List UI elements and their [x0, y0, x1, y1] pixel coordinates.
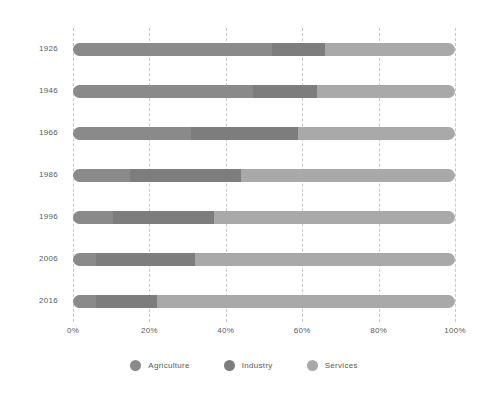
legend-item-industry[interactable]: Industry	[224, 360, 273, 371]
bar-segment-agriculture[interactable]	[73, 85, 253, 98]
stacked-bar-chart: 1926194619661986199620062016 0%20%40%60%…	[0, 0, 488, 402]
bar-row[interactable]	[73, 85, 455, 98]
legend-swatch-icon	[307, 360, 318, 371]
bar-segment-services[interactable]	[298, 127, 455, 140]
bar-segment-industry[interactable]	[96, 295, 157, 308]
legend-label: Agriculture	[148, 361, 190, 370]
bar-segment-agriculture[interactable]	[73, 169, 130, 182]
bar-segment-services[interactable]	[157, 295, 455, 308]
y-axis-label: 1996	[39, 212, 58, 221]
bar-segment-industry[interactable]	[272, 43, 325, 56]
bar-track	[73, 43, 455, 56]
x-axis-label: 60%	[294, 326, 311, 335]
y-axis-label: 1926	[39, 44, 58, 53]
bar-segment-agriculture[interactable]	[73, 295, 96, 308]
x-axis-label: 0%	[67, 326, 79, 335]
legend-item-agriculture[interactable]: Agriculture	[130, 360, 190, 371]
legend-swatch-icon	[130, 360, 141, 371]
bar-segment-services[interactable]	[325, 43, 455, 56]
legend-label: Services	[325, 361, 358, 370]
bar-track	[73, 253, 455, 266]
bar-segment-services[interactable]	[214, 211, 455, 224]
legend-swatch-icon	[224, 360, 235, 371]
bar-segment-industry[interactable]	[96, 253, 195, 266]
bar-segment-industry[interactable]	[253, 85, 318, 98]
bar-track	[73, 211, 455, 224]
bar-row[interactable]	[73, 295, 455, 308]
bar-segment-industry[interactable]	[191, 127, 298, 140]
x-axis-label: 40%	[217, 326, 234, 335]
bar-segment-services[interactable]	[241, 169, 455, 182]
bar-segment-industry[interactable]	[130, 169, 241, 182]
x-axis-label: 20%	[141, 326, 158, 335]
bar-track	[73, 169, 455, 182]
bar-segment-agriculture[interactable]	[73, 253, 96, 266]
bar-segment-agriculture[interactable]	[73, 43, 272, 56]
gridline-100pct	[455, 28, 456, 322]
y-axis-label: 1986	[39, 170, 58, 179]
bar-row[interactable]	[73, 127, 455, 140]
x-axis-label: 100%	[444, 326, 466, 335]
legend-label: Industry	[242, 361, 273, 370]
y-axis-label: 1966	[39, 128, 58, 137]
bar-segment-agriculture[interactable]	[73, 211, 113, 224]
bar-segment-industry[interactable]	[113, 211, 214, 224]
legend-item-services[interactable]: Services	[307, 360, 358, 371]
x-axis: 0%20%40%60%80%100%	[73, 326, 455, 342]
y-axis: 1926194619661986199620062016	[0, 28, 58, 322]
chart-legend: AgricultureIndustryServices	[0, 360, 488, 371]
bar-row[interactable]	[73, 169, 455, 182]
x-axis-label: 80%	[370, 326, 387, 335]
y-axis-label: 1946	[39, 86, 58, 95]
bar-track	[73, 85, 455, 98]
bar-row[interactable]	[73, 253, 455, 266]
bar-segment-services[interactable]	[317, 85, 455, 98]
bar-row[interactable]	[73, 211, 455, 224]
bar-segment-agriculture[interactable]	[73, 127, 191, 140]
plot-area	[73, 28, 455, 322]
bar-track	[73, 295, 455, 308]
y-axis-label: 2006	[39, 254, 58, 263]
bar-segment-services[interactable]	[195, 253, 455, 266]
bar-track	[73, 127, 455, 140]
y-axis-label: 2016	[39, 296, 58, 305]
bar-row[interactable]	[73, 43, 455, 56]
